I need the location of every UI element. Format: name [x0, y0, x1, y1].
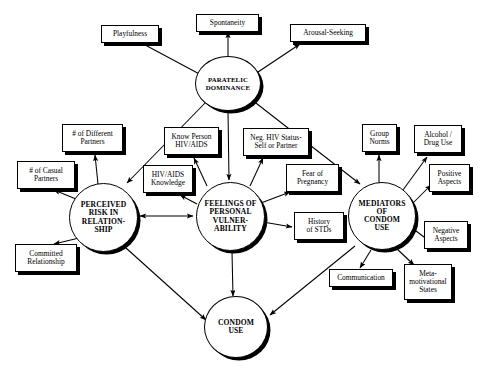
node-mediators-condom-use-label: MEDIATORS OF CONDOM USE	[358, 200, 405, 233]
node-know-person-hiv[interactable]: Know Person HIV/AIDS	[164, 127, 219, 155]
node-arousal-seeking[interactable]: Arousal-Seeking	[290, 24, 366, 42]
node-meta-motivational-states-label: Meta- motivational States	[409, 270, 446, 294]
edge-mediators-to-meta-motivational	[396, 248, 414, 265]
edge-paratelic-to-feelings	[228, 111, 229, 180]
edge-feelings-to-hiv-aids-knowledge	[180, 195, 197, 204]
node-casual-partners[interactable]: # of Casual Partners	[17, 161, 75, 189]
node-different-partners[interactable]: # of Different Partners	[62, 124, 123, 152]
node-neg-hiv-status[interactable]: Neg. HIV Status- Self or Partner	[243, 128, 309, 156]
edge-perceived-risk-to-condom-use	[126, 248, 206, 320]
node-casual-partners-label: # of Casual Partners	[29, 167, 63, 183]
edge-feelings-to-neg-hiv-status	[250, 158, 263, 186]
node-hiv-aids-knowledge-label: HIV/AIDS Knowledge	[151, 171, 185, 187]
node-mediators-condom-use[interactable]: MEDIATORS OF CONDOM USE	[348, 182, 416, 250]
edge-paratelic-to-arousal	[252, 44, 300, 76]
node-group-norms-label: Group Norms	[369, 130, 389, 146]
node-communication-label: Communication	[337, 274, 385, 282]
node-committed-relationship-label: Committed Relationship	[27, 250, 64, 266]
node-alcohol-drug-use-label: Alcohol / Drug Use	[424, 131, 453, 147]
node-playfulness-label: Playfulness	[113, 30, 147, 38]
node-feelings-vulnerability-label: FEELINGS OF PERSONAL VULNER- ABILITY	[205, 200, 257, 233]
node-hiv-aids-knowledge[interactable]: HIV/AIDS Knowledge	[143, 165, 193, 193]
edge-feelings-to-condom-use	[232, 252, 233, 296]
node-different-partners-label: # of Different Partners	[72, 130, 113, 146]
node-history-of-stds-label: History of STDs	[307, 218, 332, 234]
node-positive-aspects[interactable]: Positive Aspects	[429, 164, 470, 192]
node-fear-of-pregnancy-label: Fear of Pregnancy	[297, 170, 328, 186]
node-negative-aspects-label: Negative Aspects	[433, 227, 460, 243]
node-condom-use[interactable]: CONDOM USE	[204, 296, 268, 358]
node-feelings-vulnerability[interactable]: FEELINGS OF PERSONAL VULNER- ABILITY	[196, 182, 265, 251]
node-condom-use-label: CONDOM USE	[218, 319, 254, 335]
node-history-of-stds[interactable]: History of STDs	[294, 212, 344, 240]
node-alcohol-drug-use[interactable]: Alcohol / Drug Use	[414, 125, 462, 153]
node-meta-motivational-states[interactable]: Meta- motivational States	[404, 264, 452, 300]
node-positive-aspects-label: Positive Aspects	[438, 170, 462, 186]
node-spontaneity-label: Spontaneity	[210, 19, 245, 27]
node-paratelic-dominance-label: PARATELIC DOMINANCE	[206, 76, 250, 91]
edge-paratelic-to-playfulness	[134, 39, 205, 77]
node-arousal-seeking-label: Arousal-Seeking	[303, 29, 353, 37]
node-fear-of-pregnancy[interactable]: Fear of Pregnancy	[286, 164, 339, 192]
node-perceived-risk[interactable]: PERCEIVED RISK IN RELATION- SHIP	[69, 183, 138, 252]
node-group-norms[interactable]: Group Norms	[362, 124, 397, 152]
node-communication[interactable]: Communication	[329, 269, 393, 287]
diagram-canvas: Playfulness Spontaneity Arousal-Seeking …	[0, 0, 485, 369]
edge-perceived-risk-to-casual-partners	[54, 190, 76, 199]
node-committed-relationship[interactable]: Committed Relationship	[15, 244, 77, 272]
node-perceived-risk-label: PERCEIVED RISK IN RELATION- SHIP	[81, 201, 127, 234]
edge-perceived-risk-to-different-partners	[95, 155, 98, 184]
node-negative-aspects[interactable]: Negative Aspects	[424, 221, 468, 249]
edge-feelings-to-history-of-stds	[263, 222, 292, 227]
node-know-person-hiv-label: Know Person HIV/AIDS	[171, 133, 211, 149]
edge-feelings-to-know-person-hiv	[194, 158, 207, 186]
edge-mediators-to-communication	[360, 250, 371, 268]
node-spontaneity[interactable]: Spontaneity	[196, 14, 259, 32]
node-neg-hiv-status-label: Neg. HIV Status- Self or Partner	[250, 134, 301, 150]
edge-feelings-to-fear-of-pregnancy	[261, 192, 290, 203]
node-playfulness[interactable]: Playfulness	[101, 25, 159, 43]
node-paratelic-dominance[interactable]: PARATELIC DOMINANCE	[195, 56, 261, 111]
edge-mediators-to-alcohol-drug-use	[403, 157, 427, 190]
